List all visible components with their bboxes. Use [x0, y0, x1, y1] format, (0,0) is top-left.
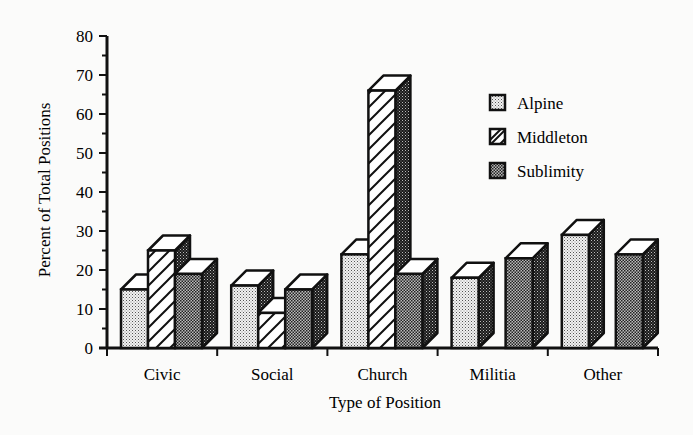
legend-label: Alpine — [517, 94, 563, 113]
y-tick-label: 10 — [76, 300, 93, 319]
x-category-label: Social — [251, 365, 294, 384]
bar-alpine-other — [562, 220, 604, 348]
x-category-label: Civic — [144, 365, 181, 384]
bars — [121, 76, 658, 348]
bar-alpine-militia — [452, 263, 494, 348]
y-tick-label: 0 — [85, 339, 94, 358]
y-axis-title: Percent of Total Positions — [35, 103, 54, 278]
legend-item-sublimity: Sublimity — [490, 162, 585, 181]
legend-item-alpine: Alpine — [490, 94, 563, 113]
x-category-label: Church — [357, 365, 408, 384]
x-category-label: Militia — [470, 365, 517, 384]
legend-label: Middleton — [517, 128, 588, 147]
bar-sublimity-church — [395, 259, 437, 348]
bar-sublimity-civic — [175, 259, 217, 348]
bar-chart: 01020304050607080CivicSocialChurchMiliti… — [0, 0, 693, 435]
legend-item-middleton: Middleton — [490, 128, 588, 147]
bar-sublimity-militia — [506, 243, 548, 348]
legend-swatch — [490, 95, 505, 110]
y-tick-label: 30 — [76, 222, 93, 241]
y-tick-label: 20 — [76, 261, 93, 280]
bar-sublimity-other — [616, 239, 658, 348]
legend-swatch — [490, 163, 505, 178]
x-category-label: Other — [584, 365, 623, 384]
x-axis-title: Type of Position — [329, 393, 442, 412]
y-tick-label: 70 — [76, 66, 93, 85]
y-tick-label: 40 — [76, 183, 93, 202]
legend-label: Sublimity — [517, 162, 585, 181]
y-tick-label: 60 — [76, 105, 93, 124]
legend: AlpineMiddletonSublimity — [490, 94, 588, 181]
bar-sublimity-social — [285, 275, 327, 349]
y-tick-label: 80 — [76, 27, 93, 46]
y-tick-label: 50 — [76, 144, 93, 163]
